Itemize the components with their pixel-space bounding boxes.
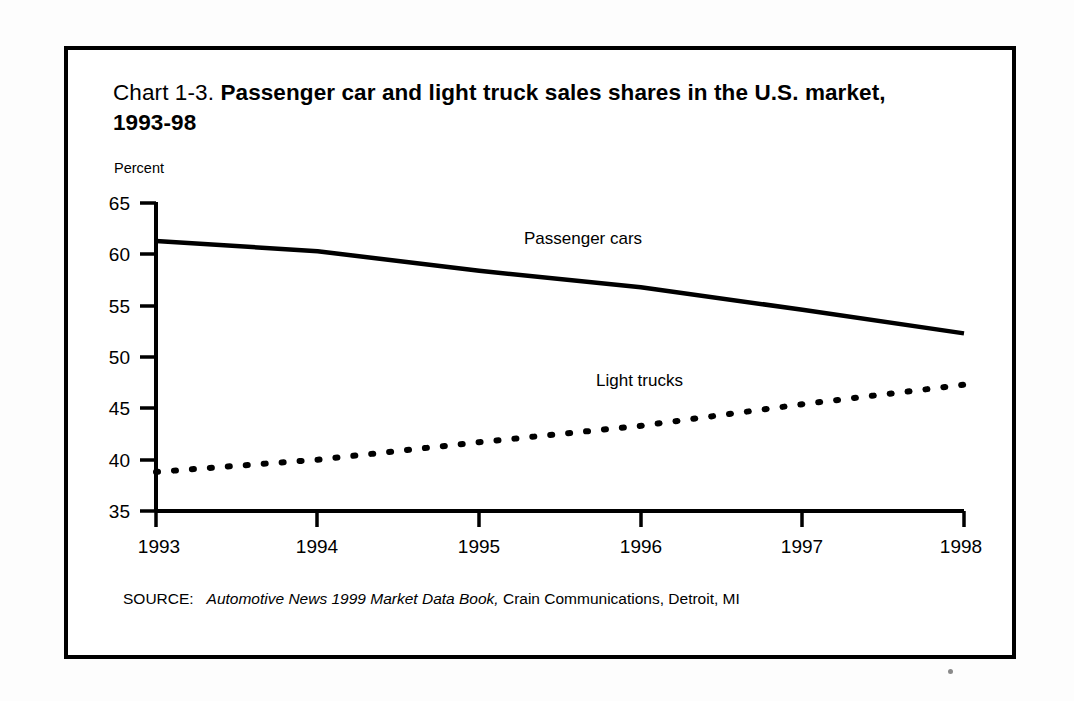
chart-figure-frame: Chart 1-3. Passenger car and light truck…	[64, 46, 1016, 659]
y-tick-label: 35	[109, 501, 130, 522]
scan-speck-artifact	[948, 669, 953, 674]
x-axis-ticks	[156, 511, 964, 527]
x-tick-label: 1995	[458, 536, 500, 557]
y-tick-label: 40	[109, 450, 130, 471]
y-tick-label: 55	[109, 296, 130, 317]
y-tick-label: 65	[109, 193, 130, 214]
x-tick-label: 1993	[138, 536, 180, 557]
y-axis-ticks	[140, 203, 156, 511]
y-tick-label: 50	[109, 347, 130, 368]
y-tick-label: 45	[109, 398, 130, 419]
x-tick-label: 1994	[296, 536, 339, 557]
series-label-passenger-cars: Passenger cars	[524, 229, 642, 248]
source-publication: Automotive News 1999 Market Data Book,	[207, 590, 499, 607]
series-line-light-trucks	[156, 385, 964, 472]
y-tick-label: 60	[109, 244, 130, 265]
chart-plot-area: 65 60 55 50 45 40 35 1993 1994 1995 1996…	[68, 50, 1012, 655]
x-tick-label: 1996	[620, 536, 662, 557]
source-note: SOURCE: Automotive News 1999 Market Data…	[123, 590, 740, 608]
series-label-light-trucks: Light trucks	[596, 371, 683, 390]
x-axis-tick-labels: 1993 1994 1995 1996 1997 1998	[138, 536, 982, 557]
source-publisher: Crain Communications, Detroit, MI	[503, 590, 740, 607]
y-axis-tick-labels: 65 60 55 50 45 40 35	[109, 193, 130, 522]
series-line-passenger-cars	[156, 241, 964, 333]
x-tick-label: 1997	[781, 536, 823, 557]
source-prefix: SOURCE:	[123, 590, 194, 607]
x-tick-label: 1998	[940, 536, 982, 557]
